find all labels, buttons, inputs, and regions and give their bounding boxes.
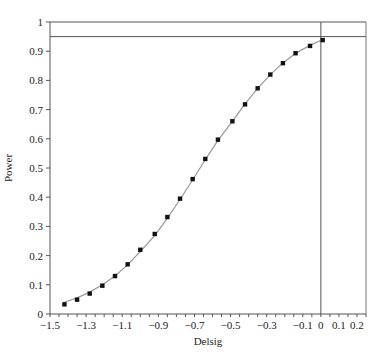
y-tick-label: 0.4 [29,191,43,203]
y-tick-label: 0.9 [29,45,43,57]
data-point [125,262,129,266]
data-point [100,283,104,287]
y-tick-label: 1 [38,16,44,28]
data-point [281,61,285,65]
x-tick-label: −1.1 [112,319,132,331]
x-tick-label: −1.5 [40,319,60,331]
x-tick-label: −0.3 [257,319,277,331]
data-point [165,215,169,219]
data-point [75,297,79,301]
x-tick-label: −0.7 [184,319,204,331]
x-tick-label: −0.5 [221,319,241,331]
x-tick-label: −0.9 [148,319,168,331]
x-axis-ticks: −1.5−1.3−1.1−0.9−0.7−0.5−0.3−0.100.10.2 [40,314,366,331]
y-tick-label: 0.1 [29,279,43,291]
y-tick-label: 0.5 [29,162,43,174]
data-point [190,177,194,181]
y-tick-label: 0.3 [29,220,43,232]
data-point [203,157,207,161]
data-point [230,119,234,123]
data-point [243,102,247,106]
data-point [153,232,157,236]
y-axis-ticks: 00.10.20.30.40.50.60.70.80.91 [29,16,50,320]
data-point [178,196,182,200]
y-axis-title: Power [2,154,14,182]
data-point [268,72,272,76]
y-tick-label: 0.8 [29,74,43,86]
data-point [216,137,220,141]
power-chart: −1.5−1.3−1.1−0.9−0.7−0.5−0.3−0.100.10.2 … [0,0,386,363]
reference-lines [50,22,366,314]
data-point [320,38,324,42]
data-point [62,302,66,306]
data-point [308,44,312,48]
data-point [255,86,259,90]
x-tick-label: 0.2 [350,319,364,331]
data-point [138,248,142,252]
y-tick-label: 0 [38,308,44,320]
x-tick-label: 0 [318,319,324,331]
data-point [293,51,297,55]
data-point [113,274,117,278]
plot-frame [50,22,366,314]
data-point [88,291,92,295]
power-curve [64,40,322,303]
x-tick-label: 0.1 [332,319,346,331]
x-axis-title: Delsig [194,335,223,347]
power-points [62,38,325,307]
x-tick-label: −0.1 [293,319,313,331]
y-tick-label: 0.6 [29,133,43,145]
y-tick-label: 0.7 [29,104,43,116]
x-tick-label: −1.3 [76,319,96,331]
y-tick-label: 0.2 [29,250,43,262]
